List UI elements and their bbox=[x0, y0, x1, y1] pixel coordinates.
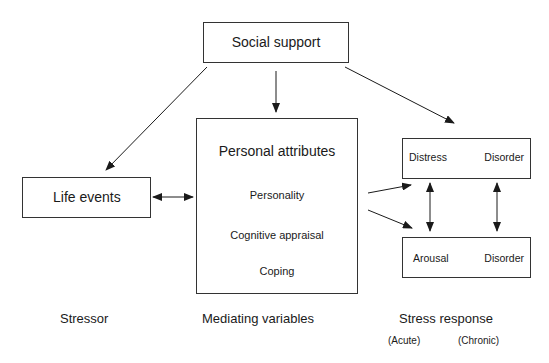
life-events-label: Life events bbox=[53, 189, 121, 205]
distress-label: Distress bbox=[409, 151, 447, 163]
social-support-box: Social support bbox=[203, 22, 349, 63]
stressor-label: Stressor bbox=[60, 311, 108, 326]
arrow-personal-to-arousal bbox=[368, 210, 412, 228]
arrow-personal-to-distress bbox=[368, 185, 411, 193]
cognitive-appraisal-label: Cognitive appraisal bbox=[197, 229, 357, 241]
personality-label: Personality bbox=[197, 189, 357, 201]
arrow-social-to-life bbox=[106, 67, 207, 170]
mediating-variables-label: Mediating variables bbox=[202, 311, 314, 326]
life-events-box: Life events bbox=[22, 177, 151, 218]
arousal-box: Arousal Disorder bbox=[402, 237, 531, 278]
disorder-chronic-label: Disorder bbox=[484, 252, 524, 264]
personal-attributes-box: Personal attributes Personality Cognitiv… bbox=[196, 118, 358, 294]
arrow-social-to-distress bbox=[345, 67, 454, 123]
disorder-acute-label: Disorder bbox=[484, 151, 524, 163]
acute-label: (Acute) bbox=[388, 335, 420, 346]
arousal-label: Arousal bbox=[413, 252, 449, 264]
social-support-label: Social support bbox=[204, 34, 348, 50]
coping-label: Coping bbox=[197, 265, 357, 277]
stress-response-label: Stress response bbox=[399, 311, 493, 326]
personal-attributes-title: Personal attributes bbox=[197, 143, 357, 159]
chronic-label: (Chronic) bbox=[458, 335, 499, 346]
distress-box: Distress Disorder bbox=[402, 138, 531, 179]
